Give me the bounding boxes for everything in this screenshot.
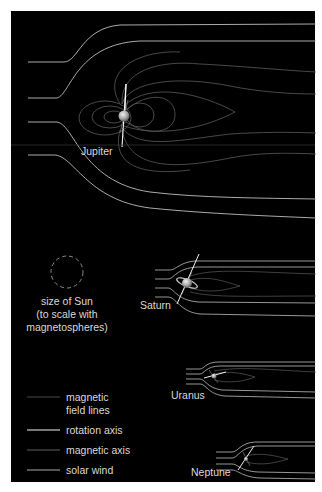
legend-label-field-lines-2: field lines: [66, 404, 110, 416]
legend-label-field-lines-1: magnetic: [66, 391, 109, 403]
uranus-planet: [212, 374, 217, 379]
legend-label-solar-wind: solar wind: [66, 464, 113, 476]
sun-note-line-2: (to scale with: [36, 308, 97, 320]
uranus-label: Uranus: [171, 389, 205, 401]
legend-label-magnetic-axis: magnetic axis: [66, 444, 130, 456]
sun-note-line-3: magnetospheres): [26, 321, 108, 333]
jupiter-label: Jupiter: [81, 145, 113, 157]
sun-note-line-1: size of Sun: [41, 295, 93, 307]
diagram-canvas: Jupiter size of Sun (to scale with magne…: [0, 0, 322, 492]
magnetosphere-comparison-figure: Jupiter size of Sun (to scale with magne…: [0, 0, 322, 492]
neptune-planet: [244, 457, 248, 461]
neptune-label: Neptune: [191, 466, 231, 478]
saturn-planet: [182, 278, 192, 288]
jupiter-planet: [119, 111, 130, 122]
legend-label-rotation-axis: rotation axis: [66, 424, 123, 436]
saturn-label: Saturn: [140, 299, 171, 311]
